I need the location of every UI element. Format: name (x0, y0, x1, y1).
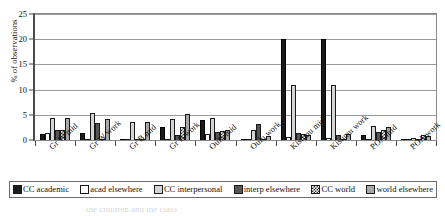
legend-label: interp elsewhere (244, 185, 301, 194)
y-tick-label: 10 (19, 85, 28, 94)
x-axis-labels: Gr W midGr W workGr B midGr B workOulu m… (33, 142, 437, 182)
legend-label: CC interpersonal (164, 185, 222, 194)
bar-group (195, 14, 235, 140)
bar-group (115, 14, 155, 140)
legend-swatch-icon (13, 185, 22, 194)
y-axis: 0510152025 (0, 13, 33, 143)
legend-swatch-icon (80, 185, 89, 194)
bar (331, 85, 336, 140)
chart-legend: CC academicacad elsewhereCC interpersona… (9, 181, 437, 198)
bar-group (276, 14, 316, 140)
caption-cutoff-text: the children and the class (86, 208, 177, 214)
legend-item: acad elsewhere (80, 185, 142, 194)
legend-label: CC academic (23, 185, 69, 194)
legend-label: CC world (321, 185, 355, 194)
legend-item: world elsewhere (366, 185, 433, 194)
legend-swatch-icon (154, 185, 163, 194)
legend-swatch-icon (234, 185, 243, 194)
bar-group (35, 14, 75, 140)
y-tick-label: 5 (23, 111, 27, 120)
legend-label: world elsewhere (376, 185, 433, 194)
bar-group (236, 14, 276, 140)
legend-swatch-icon (366, 185, 375, 194)
bars-layer (35, 14, 436, 140)
bar-group (396, 14, 436, 140)
legend-swatch-icon (311, 185, 320, 194)
bar-chart-figure: % of observations 0510152025 Gr W midGr … (0, 0, 445, 216)
y-tick-label: 25 (19, 10, 28, 19)
y-tick-label: 0 (23, 136, 27, 145)
legend-item: CC academic (13, 185, 69, 194)
legend-label: acad elsewhere (90, 185, 142, 194)
bar (291, 85, 296, 140)
y-tick-label: 15 (19, 60, 28, 69)
y-tick-label: 20 (19, 35, 28, 44)
legend-item: CC world (311, 185, 355, 194)
legend-item: CC interpersonal (154, 185, 222, 194)
bar-group (155, 14, 195, 140)
bar-group (75, 14, 115, 140)
legend-item: interp elsewhere (234, 185, 301, 194)
caption-strip: the children and the class (0, 208, 445, 216)
